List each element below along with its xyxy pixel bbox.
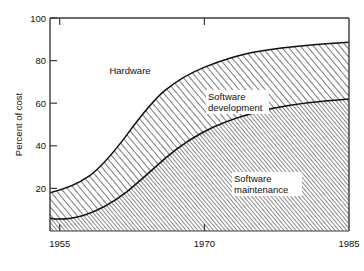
stacked-area-chart: 100 80 60 40 20 1955 1970 1985 Percent o…: [0, 0, 364, 271]
y-tick-label-40: 40: [35, 140, 46, 151]
y-tick-label-80: 80: [35, 55, 46, 66]
label-software-development-line2: development: [208, 102, 263, 113]
label-software-development: Software development: [206, 90, 269, 114]
figure-container: 100 80 60 40 20 1955 1970 1985 Percent o…: [0, 0, 364, 271]
label-software-maintenance: Software maintenance: [232, 172, 302, 196]
y-tick-label-20: 20: [35, 183, 46, 194]
x-tick-label-1970: 1970: [194, 238, 215, 249]
x-tick-label-1955: 1955: [49, 238, 70, 249]
label-software-maintenance-line1: Software: [234, 173, 272, 184]
label-software-development-line1: Software: [208, 91, 246, 102]
label-hardware: Hardware: [109, 65, 150, 76]
y-tick-label-100: 100: [30, 13, 46, 24]
y-tick-label-60: 60: [35, 98, 46, 109]
y-axis-title: Percent of cost: [13, 92, 24, 156]
label-software-maintenance-line2: maintenance: [234, 184, 288, 195]
x-tick-label-1985: 1985: [338, 238, 359, 249]
